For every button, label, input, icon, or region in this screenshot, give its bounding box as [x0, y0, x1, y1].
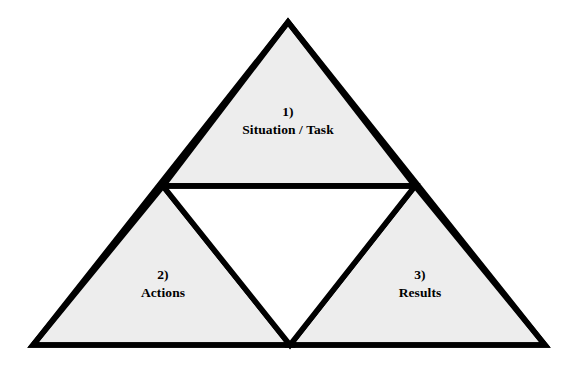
- star-triangle-diagram: 1) Situation / Task 2) Actions 3) Result…: [0, 0, 577, 367]
- triangle-graphic: [0, 0, 577, 367]
- region-shape-situation-task: [163, 22, 415, 186]
